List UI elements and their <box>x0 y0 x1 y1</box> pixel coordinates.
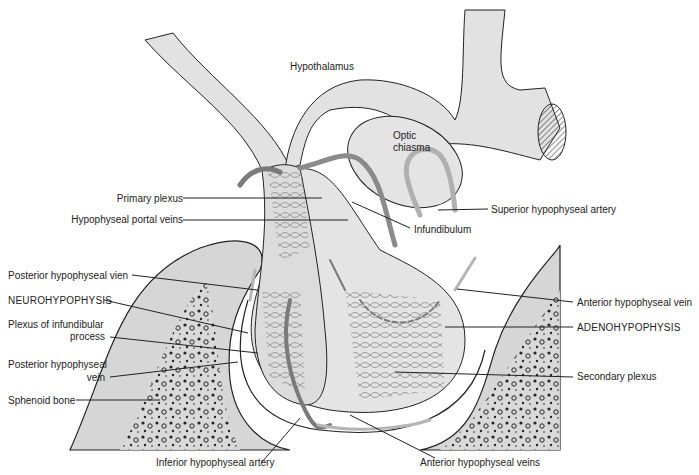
label-adenohypophysis: ADENOHYPOPHYSIS <box>577 322 681 333</box>
label-hypothalamus: Hypothalamus <box>290 61 354 72</box>
label-posterior-hypophyseal-vien: Posterior hypophyseal vien <box>8 270 128 281</box>
label-inferior-hypophyseal-artery: Inferior hypophyseal artery <box>156 457 274 468</box>
label-primary-plexus: Primary plexus <box>117 193 183 204</box>
label-plexus-infundibular-line2: process <box>70 331 105 342</box>
label-optic-chiasma-line2: chiasma <box>393 142 430 153</box>
pituitary-diagram: Hypothalamus Optic chiasma Primary plexu… <box>0 0 699 475</box>
label-superior-hypophyseal-artery: Superior hypophyseal artery <box>491 204 616 215</box>
label-posterior-hypophyseal-vein-line2: vein <box>87 372 105 383</box>
label-secondary-plexus: Secondary plexus <box>577 371 657 382</box>
label-plexus-infundibular-line1: Plexus of infundibular <box>8 319 104 330</box>
label-hypophyseal-portal-veins: Hypophyseal portal veins <box>71 214 183 225</box>
optic-nerve-section <box>538 104 566 160</box>
label-optic-chiasma-line1: Optic <box>393 130 416 141</box>
label-posterior-hypophyseal-vein-line1: Posterior hypophyseal <box>8 359 107 370</box>
hypothalamus-stalk <box>145 33 290 170</box>
label-anterior-hypophyseal-veins: Anterior hypophyseal veins <box>420 457 540 468</box>
secondary-plexus-mesh <box>345 290 445 400</box>
label-anterior-hypophyseal-vein: Anterior hypophyseal vein <box>577 297 692 308</box>
label-sphenoid-bone: Sphenoid bone <box>8 395 75 406</box>
label-neurohypophysis: NEUROHYPOPHYSIS <box>8 295 112 306</box>
label-infundibulum: Infundibulum <box>414 224 471 235</box>
